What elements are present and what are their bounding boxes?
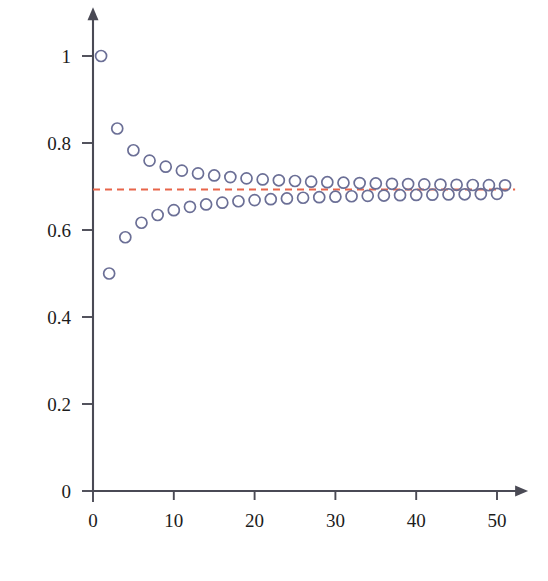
data-point: [338, 177, 349, 188]
data-point: [281, 193, 292, 204]
data-point: [346, 191, 357, 202]
chart-canvas: 0102030405000.20.40.60.81: [0, 0, 548, 581]
x-tick-label-50: 50: [488, 510, 507, 531]
data-point: [144, 155, 155, 166]
data-point: [160, 161, 171, 172]
data-point: [176, 165, 187, 176]
tick-labels-layer: 0102030405000.20.40.60.81: [47, 46, 506, 531]
data-point: [322, 177, 333, 188]
data-point: [427, 189, 438, 200]
data-point: [209, 170, 220, 181]
data-point: [362, 190, 373, 201]
y-tick-label-0.6: 0.6: [47, 220, 71, 241]
data-point: [249, 195, 260, 206]
data-point: [459, 189, 470, 200]
data-point: [96, 51, 107, 62]
data-point: [403, 179, 414, 190]
data-point: [112, 123, 123, 134]
y-tick-label-1: 1: [62, 46, 72, 67]
data-point: [201, 199, 212, 210]
data-point: [168, 205, 179, 216]
data-point: [386, 178, 397, 189]
data-point: [128, 145, 139, 156]
data-point: [233, 196, 244, 207]
axis-layer: [88, 7, 529, 496]
data-point: [225, 172, 236, 183]
data-point: [395, 190, 406, 201]
data-point: [184, 201, 195, 212]
data-point: [314, 192, 325, 203]
data-point: [298, 192, 309, 203]
data-point: [136, 217, 147, 228]
x-tick-label-40: 40: [407, 510, 426, 531]
data-point: [354, 178, 365, 189]
x-tick-label-10: 10: [164, 510, 183, 531]
y-tick-label-0: 0: [62, 481, 72, 502]
data-point: [217, 197, 228, 208]
x-tick-label-30: 30: [326, 510, 345, 531]
x-tick-label-0: 0: [88, 510, 98, 531]
data-point: [193, 168, 204, 179]
data-point: [273, 175, 284, 186]
data-point: [483, 180, 494, 191]
data-point: [467, 180, 478, 191]
x-tick-label-20: 20: [245, 510, 264, 531]
y-axis-arrowhead: [88, 7, 99, 20]
data-point: [104, 268, 115, 279]
data-point: [330, 191, 341, 202]
data-point: [411, 189, 422, 200]
data-point: [370, 178, 381, 189]
scatter-plot: 0102030405000.20.40.60.81: [0, 0, 548, 581]
data-point: [419, 179, 430, 190]
data-point: [435, 179, 446, 190]
y-tick-label-0.2: 0.2: [47, 394, 71, 415]
data-point: [120, 232, 131, 243]
y-tick-label-0.4: 0.4: [47, 307, 71, 328]
data-points-layer: [96, 51, 511, 280]
data-point: [378, 190, 389, 201]
data-point: [265, 194, 276, 205]
x-axis-arrowhead: [515, 486, 528, 497]
data-point: [257, 174, 268, 185]
data-point: [241, 173, 252, 184]
ticks-layer: [82, 56, 497, 502]
data-point: [443, 189, 454, 200]
data-point: [306, 176, 317, 187]
data-point: [152, 209, 163, 220]
data-point: [290, 176, 301, 187]
y-tick-label-0.8: 0.8: [47, 133, 71, 154]
